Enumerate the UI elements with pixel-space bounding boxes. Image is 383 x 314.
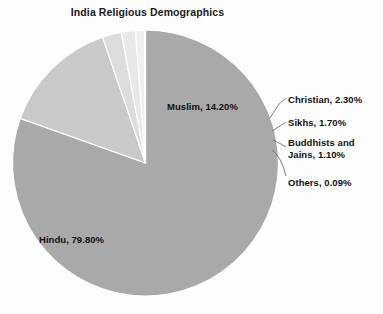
pie-callout-buddhists-line2: Jains, 1.10% [288,149,355,161]
leader-line-christian [270,98,286,118]
pie-label-hindu: Hindu, 79.80% [39,234,104,245]
pie-chart-figure: India Religious Demographics Muslim, 14.… [0,0,383,314]
leader-line-sikhs [272,122,286,131]
pie-callout-others: Others, 0.09% [288,177,352,189]
pie-callout-christian: Christian, 2.30% [288,94,362,106]
pie-callout-buddhists-jains: Buddhists and Jains, 1.10% [288,137,355,161]
pie-slice-group [13,30,279,296]
pie-label-muslim: Muslim, 14.20% [167,101,238,112]
pie-callout-buddhists-line1: Buddhists and [288,137,355,149]
pie-callout-sikhs: Sikhs, 1.70% [288,117,346,129]
pie-slice-others [145,30,146,163]
